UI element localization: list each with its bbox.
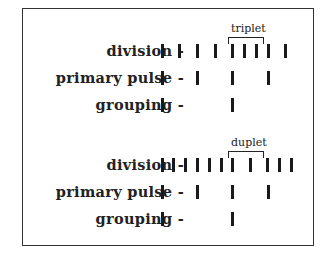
triplet-bracket: [228, 37, 264, 44]
pulse-tick: [267, 44, 270, 58]
triplet-label: triplet: [231, 23, 266, 35]
pulse-tick: [161, 185, 164, 199]
pulse-tick: [161, 212, 164, 226]
row-label: grouping -: [96, 211, 184, 227]
pulse-tick: [243, 44, 246, 58]
pulse-tick: [231, 98, 234, 112]
row-label: grouping -: [96, 97, 184, 113]
duplet-label: duplet: [231, 137, 267, 149]
pulse-tick: [161, 71, 164, 85]
pulse-tick: [161, 44, 164, 58]
pulse-tick: [231, 44, 234, 58]
pulse-tick: [196, 158, 199, 172]
pulse-tick: [267, 71, 270, 85]
duplet-bracket: [228, 151, 264, 158]
pulse-tick: [278, 158, 281, 172]
pulse-tick: [208, 158, 211, 172]
pulse-tick: [290, 158, 293, 172]
pulse-tick: [231, 185, 234, 199]
pulse-tick: [231, 158, 234, 172]
pulse-tick: [255, 44, 258, 58]
row-label: primary pulse -: [56, 70, 184, 86]
pulse-tick: [161, 158, 164, 172]
pulse-tick: [220, 158, 223, 172]
pulse-tick: [196, 44, 199, 58]
pulse-tick: [172, 158, 175, 172]
pulse-tick: [231, 212, 234, 226]
pulse-tick: [161, 98, 164, 112]
pulse-tick: [231, 71, 234, 85]
pulse-tick: [178, 44, 181, 58]
pulse-tick: [214, 44, 217, 58]
pulse-tick: [184, 158, 187, 172]
row-label: division -: [106, 43, 184, 59]
pulse-tick: [267, 185, 270, 199]
pulse-tick: [249, 158, 252, 172]
pulse-tick: [284, 44, 287, 58]
pulse-tick: [266, 158, 269, 172]
pulse-tick: [196, 185, 199, 199]
row-label: primary pulse -: [56, 184, 184, 200]
pulse-tick: [196, 71, 199, 85]
